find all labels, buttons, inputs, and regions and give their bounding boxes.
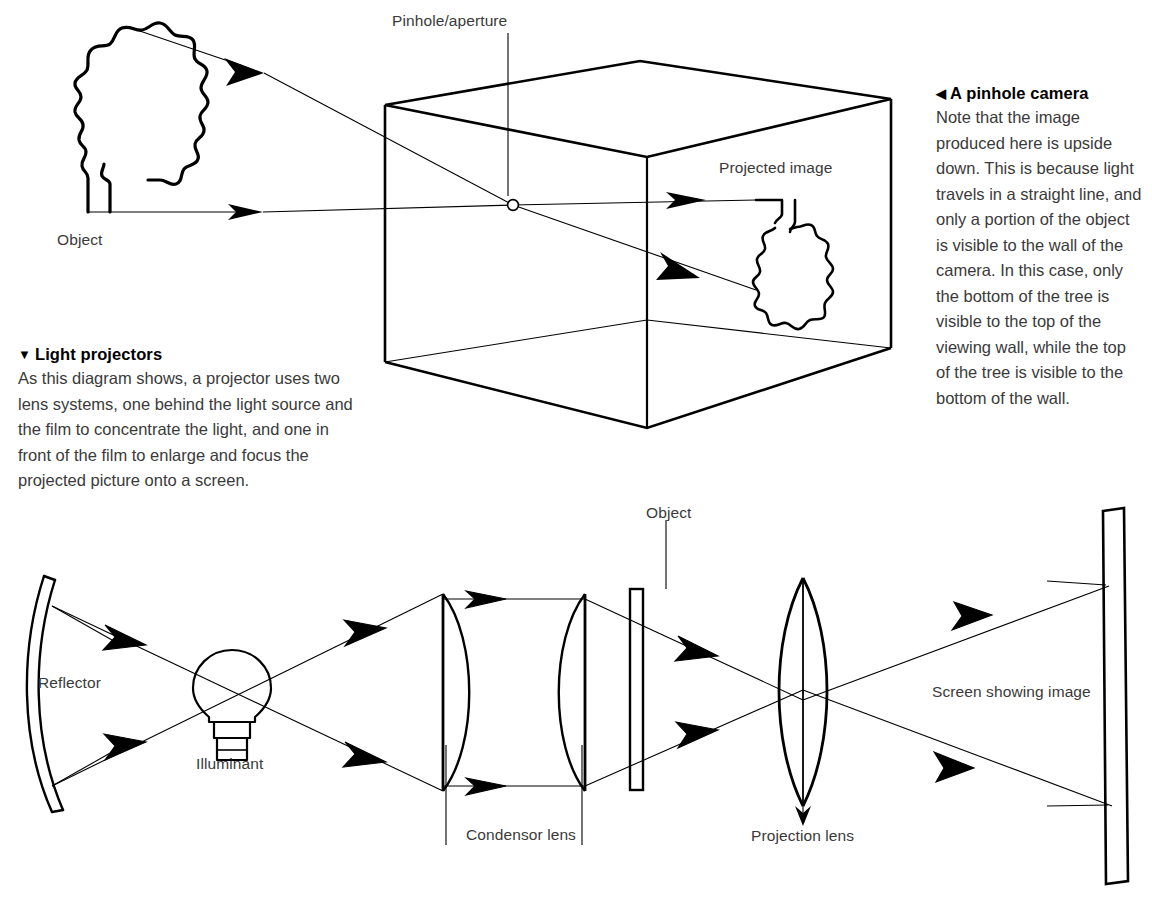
caption-light-projectors: ▼Light projectors As this diagram shows,…: [18, 345, 363, 494]
label-projected-image: Projected image: [719, 159, 833, 177]
caption-projector-heading-text: Light projectors: [35, 345, 162, 363]
caption-pinhole-heading: ◀A pinhole camera: [936, 84, 1144, 103]
left-triangle-icon: ◀: [936, 86, 946, 101]
arrowhead-upper-ray-out: [224, 58, 264, 86]
arrowhead-ray-g: [675, 636, 718, 661]
label-object-tree: Object: [57, 231, 102, 249]
down-triangle-icon: ▼: [18, 347, 31, 362]
caption-pinhole-heading-text: A pinhole camera: [950, 84, 1089, 102]
camera-box: [385, 61, 891, 428]
arrowhead-ray-j: [934, 752, 974, 782]
arrowhead-ray-a: [103, 625, 146, 650]
inverted-tree-image: [753, 200, 833, 329]
label-reflector: Reflector: [38, 674, 101, 692]
arrowhead-ray-c: [343, 742, 386, 767]
label-pinhole-aperture: Pinhole/aperture: [392, 12, 507, 30]
arrowhead-ray-i: [952, 602, 992, 630]
reflector-leaders: [52, 606, 112, 786]
label-object-film: Object: [646, 504, 691, 522]
light-bulb: [193, 650, 271, 760]
arrowhead-lower-ray-in: [656, 252, 700, 280]
caption-pinhole-camera: ◀A pinhole camera Note that the image pr…: [936, 84, 1144, 411]
diagram-page: Pinhole/aperture Projected image Object …: [0, 0, 1152, 899]
pinhole-point: [508, 200, 519, 211]
lower-light-ray: [88, 204, 756, 290]
tree-object: [75, 23, 208, 212]
film-slide: [630, 589, 643, 790]
label-screen-showing-image: Screen showing image: [932, 683, 1091, 701]
condensor-lens-right: [559, 594, 585, 791]
arrowhead-ray-b: [104, 734, 146, 760]
concave-reflector: [27, 576, 63, 812]
arrowhead-upper-ray-in: [666, 192, 706, 209]
upper-light-ray: [128, 27, 756, 209]
condensor-lens-left: [443, 594, 469, 791]
arrowhead-ray-h: [676, 722, 718, 748]
caption-projector-heading: ▼Light projectors: [18, 345, 363, 364]
label-projection-lens: Projection lens: [751, 827, 854, 845]
caption-pinhole-body: Note that the image produced here is ups…: [936, 105, 1144, 411]
projection-screen: [1103, 508, 1128, 884]
projection-lens-leader: [795, 806, 811, 826]
arrowhead-ray-d: [344, 620, 386, 646]
caption-projector-body: As this diagram shows, a projector uses …: [18, 366, 363, 494]
label-condensor-lens: Condensor lens: [466, 826, 576, 844]
label-illuminant: Illuminant: [196, 755, 263, 773]
